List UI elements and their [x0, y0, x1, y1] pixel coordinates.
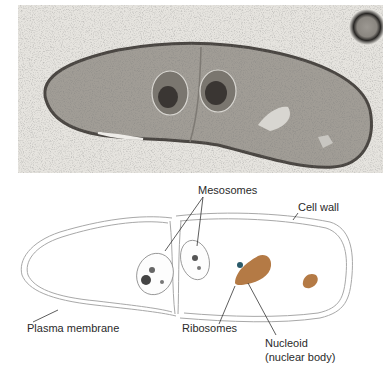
label-nucleoid: Nucleoid [265, 337, 308, 350]
label-plasma-membrane: Plasma membrane [27, 322, 119, 335]
label-cell-wall: Cell wall [298, 201, 339, 214]
label-ribosomes: Ribosomes [182, 322, 237, 335]
label-mesosomes: Mesosomes [198, 184, 257, 197]
label-nucleoid-sub: (nuclear body) [265, 351, 335, 364]
cell-diagram [0, 0, 389, 369]
leader-ribosomes [219, 286, 235, 324]
nucleoid-body [235, 255, 271, 285]
nucleoid-fragment [303, 274, 318, 288]
leader-plasma-membrane [33, 310, 58, 322]
leader-nucleoid [248, 283, 276, 335]
